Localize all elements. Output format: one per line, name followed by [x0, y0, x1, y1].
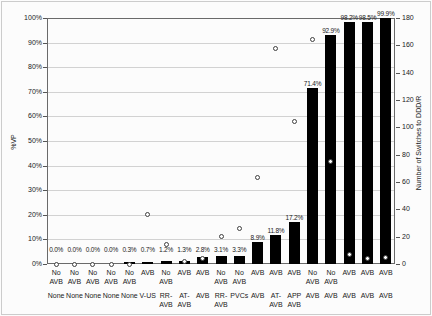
right-axis-tick-label: 0 [402, 260, 428, 268]
right-axis-tick-label: 180 [402, 14, 428, 22]
left-axis-tick-label: 80% [12, 63, 42, 71]
vp-bar [234, 256, 245, 264]
right-axis-tick-label: 120 [402, 96, 428, 104]
left-axis-tick-label: 100% [12, 14, 42, 22]
right-axis-tick [396, 237, 400, 238]
right-axis-tick [396, 18, 400, 19]
left-axis-tick [43, 166, 47, 167]
left-axis-tick [43, 264, 47, 265]
switches-marker [237, 226, 242, 231]
bar-value-label: 8.9% [244, 234, 272, 241]
left-axis-tick [43, 116, 47, 117]
left-axis-tick-label: 10% [12, 235, 42, 243]
bar-value-label: 71.4% [299, 80, 327, 87]
left-axis-tick [43, 190, 47, 191]
vp-bar [270, 235, 281, 264]
left-axis-tick [43, 92, 47, 93]
switches-marker [72, 262, 77, 267]
left-axis-tick-label: 50% [12, 137, 42, 145]
left-axis-tick [43, 215, 47, 216]
left-axis-tick-label: 60% [12, 112, 42, 120]
category-avb-label: AVB [372, 269, 400, 278]
bar-value-label: 99.9% [372, 10, 400, 17]
left-axis-tick [43, 18, 47, 19]
right-axis-tick [396, 209, 400, 210]
left-axis-tick-label: 20% [12, 211, 42, 219]
left-axis-tick [43, 239, 47, 240]
left-axis-tick [43, 67, 47, 68]
left-axis-tick-label: 90% [12, 39, 42, 47]
switches-marker [347, 252, 352, 257]
right-y-axis-title: Number of Switches to DDD/R [415, 96, 422, 191]
right-axis-tick-label: 100 [402, 123, 428, 131]
bar-value-label: 17.2% [280, 214, 308, 221]
right-axis-tick-label: 60 [402, 178, 428, 186]
category-rhythm-label: AVB [372, 292, 400, 301]
vp-bar [252, 242, 263, 264]
vp-bar [325, 35, 336, 264]
left-axis-tick-label: 40% [12, 162, 42, 170]
vp-bar [344, 22, 355, 264]
vp-bar [161, 261, 172, 264]
right-axis-tick [396, 127, 400, 128]
switches-marker [109, 262, 114, 267]
vp-bar [216, 256, 227, 264]
switches-marker [127, 262, 132, 267]
vp-bar [307, 88, 318, 264]
left-axis-tick-label: 70% [12, 88, 42, 96]
bar-value-label: 3.3% [225, 246, 253, 253]
chart-figure: %VP Number of Switches to DDD/R 0%10%20%… [0, 0, 432, 316]
left-axis-tick [43, 141, 47, 142]
right-axis-tick [396, 155, 400, 156]
vp-bar [380, 18, 391, 264]
left-axis-tick-label: 0% [12, 260, 42, 268]
left-axis-tick [43, 43, 47, 44]
right-axis-tick-label: 40 [402, 205, 428, 213]
switches-marker [90, 262, 95, 267]
switches-marker [164, 242, 169, 247]
vp-bar [289, 222, 300, 264]
switches-marker [182, 259, 187, 264]
left-axis-tick-label: 30% [12, 186, 42, 194]
right-axis-tick [396, 182, 400, 183]
bar-value-label: 92.9% [317, 27, 345, 34]
switches-marker [54, 262, 59, 267]
right-axis-tick-label: 160 [402, 41, 428, 49]
vp-bar [142, 262, 153, 265]
right-axis-tick [396, 73, 400, 74]
bar-value-label: 11.8% [262, 227, 290, 234]
right-axis-tick-label: 20 [402, 233, 428, 241]
right-axis-tick-label: 140 [402, 69, 428, 77]
switches-marker [219, 234, 224, 239]
right-axis-tick-label: 80 [402, 151, 428, 159]
right-axis-tick [396, 45, 400, 46]
vp-bar [362, 22, 373, 264]
right-axis-tick [396, 100, 400, 101]
right-axis-tick [396, 264, 400, 265]
